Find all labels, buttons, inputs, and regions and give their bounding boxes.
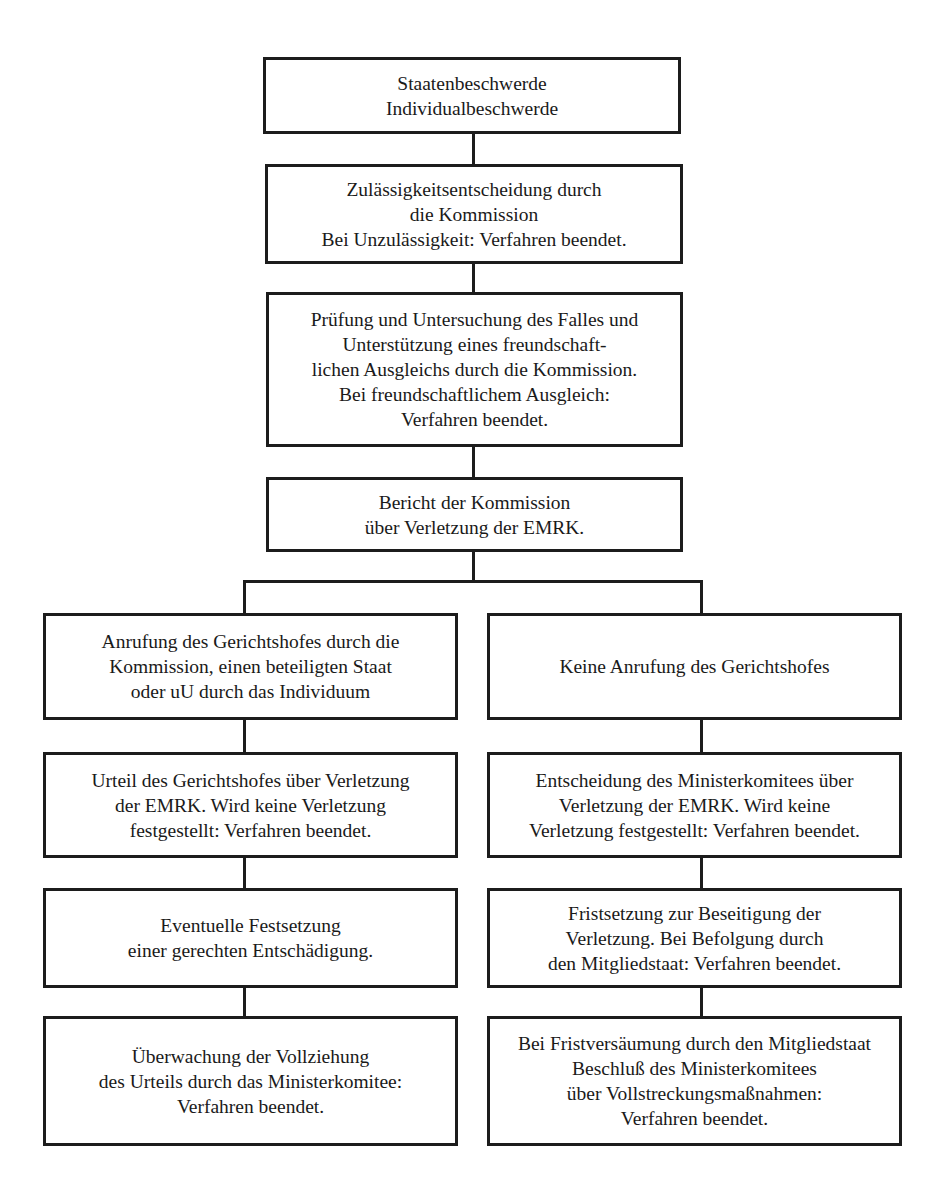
box-vollstreckungsmassnahmen: Bei Fristversäumung durch den Mitgliedst… bbox=[487, 1016, 902, 1146]
branch-connector-right bbox=[700, 580, 703, 614]
box-entschaedigung: Eventuelle Festsetzung einer gerechten E… bbox=[43, 888, 458, 988]
connector bbox=[472, 264, 475, 293]
connector bbox=[700, 720, 703, 753]
branch-connector-left bbox=[243, 580, 246, 614]
branch-connector-bar bbox=[243, 580, 703, 583]
box-fristsetzung: Fristsetzung zur Beseitigung der Verletz… bbox=[487, 888, 902, 988]
box-staatenbeschwerde: Staatenbeschwerde Individualbeschwerde bbox=[263, 57, 681, 134]
box-label: Entscheidung des Ministerkomitees über V… bbox=[529, 768, 860, 843]
box-label: Bei Fristversäumung durch den Mitgliedst… bbox=[518, 1031, 871, 1131]
branch-connector-stem bbox=[472, 552, 475, 582]
connector bbox=[700, 988, 703, 1017]
box-entscheidung-ministerkomitee: Entscheidung des Ministerkomitees über V… bbox=[487, 752, 902, 858]
box-zulaessigkeit: Zulässigkeitsentscheidung durch die Komm… bbox=[265, 164, 683, 264]
box-label: Anrufung des Gerichtshofes durch die Kom… bbox=[102, 629, 400, 704]
connector bbox=[243, 988, 246, 1017]
box-label: Überwachung der Vollziehung des Urteils … bbox=[99, 1044, 402, 1119]
box-label: Zulässigkeitsentscheidung durch die Komm… bbox=[321, 177, 626, 252]
connector bbox=[243, 720, 246, 753]
box-bericht: Bericht der Kommission über Verletzung d… bbox=[266, 477, 683, 552]
connector bbox=[472, 134, 475, 165]
box-anrufung-gerichtshof: Anrufung des Gerichtshofes durch die Kom… bbox=[43, 613, 458, 720]
box-keine-anrufung: Keine Anrufung des Gerichtshofes bbox=[487, 613, 902, 720]
box-label: Staatenbeschwerde Individualbeschwerde bbox=[386, 71, 558, 121]
box-label: Keine Anrufung des Gerichtshofes bbox=[559, 654, 829, 679]
box-pruefung: Prüfung und Untersuchung des Falles und … bbox=[266, 292, 683, 447]
box-label: Eventuelle Festsetzung einer gerechten E… bbox=[128, 913, 373, 963]
box-label: Urteil des Gerichtshofes über Verletzung… bbox=[91, 768, 409, 843]
connector bbox=[472, 447, 475, 478]
box-label: Prüfung und Untersuchung des Falles und … bbox=[311, 307, 639, 432]
box-label: Bericht der Kommission über Verletzung d… bbox=[365, 490, 585, 540]
connector bbox=[700, 858, 703, 889]
box-label: Fristsetzung zur Beseitigung der Verletz… bbox=[548, 901, 841, 976]
box-ueberwachung-vollziehung: Überwachung der Vollziehung des Urteils … bbox=[43, 1016, 458, 1146]
box-urteil-gerichtshof: Urteil des Gerichtshofes über Verletzung… bbox=[43, 752, 458, 858]
connector bbox=[243, 858, 246, 889]
